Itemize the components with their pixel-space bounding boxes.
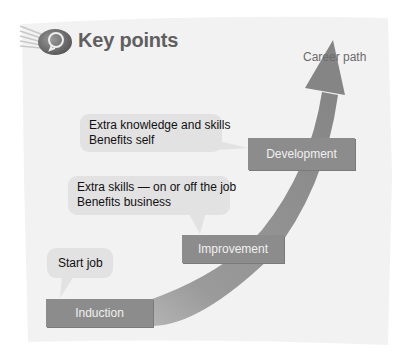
- arrow-label: Career path: [303, 50, 366, 64]
- callout-line: Start job: [58, 256, 103, 271]
- stage-label: Development: [266, 147, 337, 161]
- stage-improvement: Improvement: [182, 235, 284, 263]
- callout-line: Benefits business: [77, 195, 236, 210]
- callout-line: Benefits self: [89, 133, 230, 148]
- stage-label: Induction: [75, 306, 124, 320]
- stage-label: Improvement: [198, 242, 268, 256]
- stage-induction: Induction: [46, 299, 153, 327]
- callout-line: Extra skills — on or off the job: [77, 180, 236, 195]
- callout-line: Extra knowledge and skills: [89, 118, 230, 133]
- callout-text-business: Extra skills — on or off the job Benefit…: [77, 180, 236, 210]
- page-title: Key points: [78, 29, 178, 52]
- callout-text-self: Extra knowledge and skills Benefits self: [89, 118, 230, 148]
- callout-text-start: Start job: [58, 256, 103, 271]
- stage-development: Development: [248, 138, 355, 170]
